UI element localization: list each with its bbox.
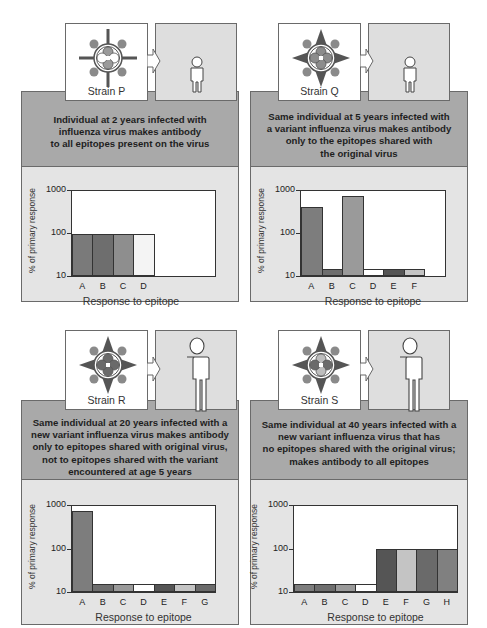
- y-tick-label: 100: [267, 227, 295, 237]
- x-tick-label: B: [315, 597, 335, 607]
- chart-panel: 100010010ABCDEFGH% of primary responseRe…: [250, 480, 468, 625]
- y-tick-label: 10: [260, 586, 288, 596]
- virus-box: Strain S: [278, 330, 361, 410]
- virus-box: Strain R: [65, 330, 148, 410]
- x-axis-label: Response to epitope: [293, 611, 458, 623]
- y-tick-label: 10: [267, 270, 295, 280]
- arrow-right-icon: [147, 48, 161, 78]
- person-icon: [396, 337, 424, 417]
- virus-box: Strain Q: [278, 23, 361, 101]
- y-tick-label: 1000: [38, 184, 66, 194]
- caption-text: Same individual at 20 years infected wit…: [28, 417, 232, 478]
- bar-epitope-a: [301, 207, 323, 276]
- virus-icon: [77, 334, 139, 400]
- caption-line: encountered at age 5 years: [28, 466, 232, 478]
- caption-line: Same individual at 20 years infected wit…: [28, 417, 232, 429]
- person-icon: [401, 56, 419, 98]
- x-axis-label: Response to epitope: [300, 295, 446, 307]
- bar-epitope-a: [294, 584, 315, 592]
- caption-line: new variant influenza virus makes antibo…: [28, 429, 232, 441]
- y-tick-mark: [67, 505, 71, 506]
- person-box: [155, 23, 237, 101]
- panel-strain-r: Strain RSame individual at 20 years infe…: [21, 313, 239, 625]
- caption-line: to all epitopes present on the virus: [28, 138, 232, 150]
- strain-label: Strain Q: [279, 85, 360, 97]
- y-tick-mark: [289, 592, 293, 593]
- y-axis-label: % of primary response: [249, 504, 259, 589]
- panel-strain-p: Strain PIndividual at 2 years infected w…: [21, 0, 239, 302]
- caption-line: Same individual at 40 years infected wit…: [257, 419, 461, 431]
- virus-icon: [77, 27, 139, 93]
- y-tick-mark: [289, 549, 293, 550]
- caption-panel: Same individual at 5 years infected with…: [250, 91, 468, 167]
- caption-text: Individual at 2 years infected withinflu…: [28, 114, 232, 151]
- y-tick-label: 1000: [38, 499, 66, 509]
- panel-strain-q: Strain QSame individual at 5 years infec…: [250, 0, 468, 302]
- bar-epitope-a: [72, 234, 93, 277]
- y-tick-mark: [296, 276, 300, 277]
- x-tick-label: D: [134, 281, 154, 291]
- strain-label: Strain S: [279, 394, 360, 406]
- x-tick-label: F: [174, 597, 194, 607]
- x-tick-label: A: [72, 281, 92, 291]
- caption-text: Same individual at 5 years infected with…: [257, 111, 461, 160]
- caption-text: Same individual at 40 years infected wit…: [257, 419, 461, 468]
- strain-label: Strain R: [66, 394, 147, 406]
- y-axis-label: % of primary response: [256, 188, 266, 273]
- bar-epitope-d: [133, 234, 154, 277]
- y-tick-mark: [67, 276, 71, 277]
- caption-line: influenza virus makes antibody: [28, 126, 232, 138]
- caption-line: makes antibody to all epitopes: [257, 456, 461, 468]
- x-tick-label: G: [416, 597, 436, 607]
- x-tick-label: D: [134, 597, 154, 607]
- bar-chart-plot-area: [300, 190, 446, 277]
- arrow-right-icon: [360, 48, 374, 78]
- chart-panel: 100010010ABCD% of primary responseRespon…: [21, 167, 239, 302]
- y-tick-label: 1000: [267, 184, 295, 194]
- x-tick-label: C: [342, 281, 362, 291]
- x-tick-label: D: [355, 597, 375, 607]
- chart-panel: 100010010ABCDEFG% of primary responseRes…: [21, 480, 239, 625]
- y-tick-mark: [67, 233, 71, 234]
- bar-epitope-d: [133, 584, 154, 592]
- x-tick-label: B: [322, 281, 342, 291]
- x-tick-label: F: [396, 597, 416, 607]
- x-tick-label: B: [93, 597, 113, 607]
- bar-epitope-b: [92, 234, 113, 277]
- x-tick-label: A: [301, 281, 321, 291]
- bar-chart-plot-area: [71, 190, 216, 277]
- x-tick-label: A: [72, 597, 92, 607]
- x-tick-label: E: [384, 281, 404, 291]
- bar-epitope-g: [195, 584, 216, 592]
- caption-line: a variant influenza virus makes antibody: [257, 123, 461, 135]
- person-icon: [183, 337, 211, 417]
- bar-epitope-h: [437, 549, 458, 592]
- person-box: [368, 330, 450, 410]
- y-tick-label: 10: [38, 586, 66, 596]
- bar-epitope-g: [416, 549, 437, 592]
- x-tick-label: B: [93, 281, 113, 291]
- bar-epitope-c: [113, 234, 134, 277]
- y-tick-label: 1000: [260, 499, 288, 509]
- chart-panel: 100010010ABCDEF% of primary responseResp…: [250, 167, 468, 302]
- caption-line: the original virus: [257, 148, 461, 160]
- y-tick-label: 100: [260, 543, 288, 553]
- bar-epitope-b: [322, 269, 344, 276]
- person-box: [368, 23, 450, 101]
- bar-epitope-c: [113, 584, 134, 592]
- x-axis-label: Response to epitope: [71, 295, 191, 307]
- x-tick-label: C: [335, 597, 355, 607]
- bar-epitope-c: [342, 196, 364, 276]
- y-tick-mark: [67, 190, 71, 191]
- caption-line: no epitopes shared with the original vir…: [257, 443, 461, 455]
- x-tick-label: A: [294, 597, 314, 607]
- x-tick-label: C: [113, 597, 133, 607]
- x-tick-label: F: [404, 281, 424, 291]
- x-tick-label: E: [376, 597, 396, 607]
- x-tick-label: D: [363, 281, 383, 291]
- bar-chart-plot-area: [71, 505, 216, 593]
- caption-line: Individual at 2 years infected with: [28, 114, 232, 126]
- bar-epitope-d: [363, 269, 385, 276]
- person-box: [155, 330, 237, 410]
- bar-epitope-b: [314, 584, 335, 592]
